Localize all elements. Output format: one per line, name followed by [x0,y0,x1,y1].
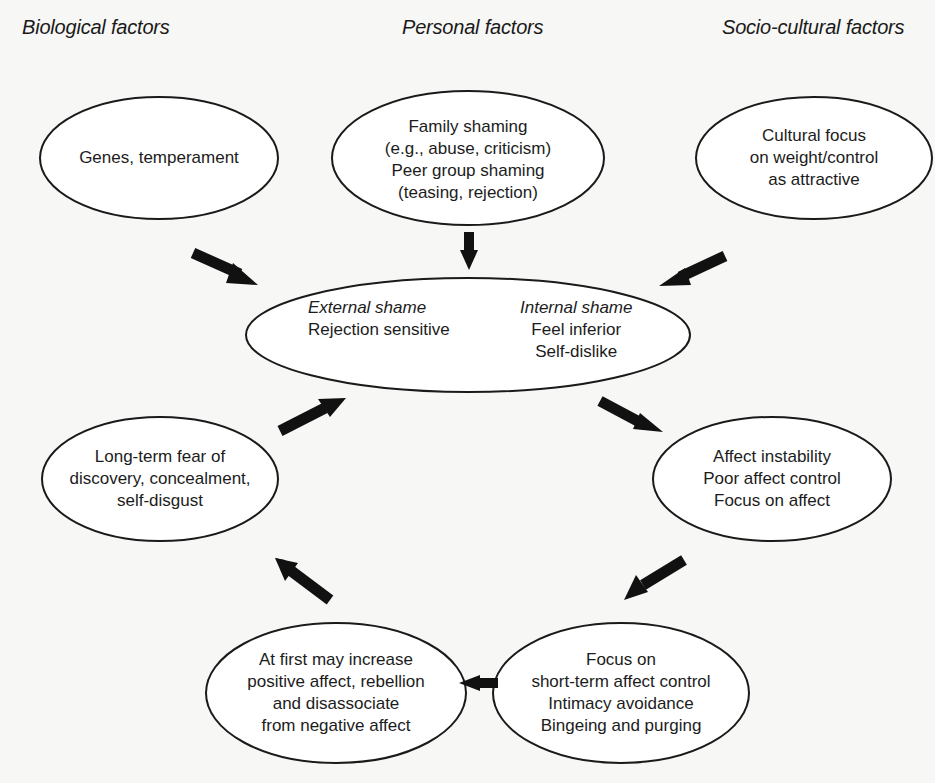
long-term-line: self-disgust [69,490,250,512]
cultural-line: as attractive [750,169,879,191]
at-first-line: positive affect, rebellion [247,671,424,693]
long-term-node: Long-term fear of discovery, concealment… [69,446,250,512]
personal-factors-node: Family shaming (e.g., abuse, criticism) … [385,116,551,204]
genes-line: Genes, temperament [79,147,239,169]
arrow-up-left-icon [275,558,330,600]
at-first-line: and disassociate [247,693,424,715]
focus-short-term-node: Focus on short-term affect control Intim… [531,649,710,737]
arrow-down-left-icon [624,560,684,600]
internal-shame-title: Internal shame [520,297,632,319]
focus-short-line: short-term affect control [531,671,710,693]
internal-shame-line: Feel inferior [520,319,632,341]
external-shame-line: Rejection sensitive [308,319,450,341]
focus-short-line: Focus on [531,649,710,671]
genes-node: Genes, temperament [79,147,239,169]
affect-line: Affect instability [703,446,841,468]
affect-line: Poor affect control [703,468,841,490]
affect-line: Focus on affect [703,490,841,512]
heading-socio-cultural-factors: Socio-cultural factors [722,16,904,39]
external-shame-title: External shame [308,297,450,319]
external-shame-block: External shame Rejection sensitive [308,297,450,341]
internal-shame-block: Internal shame Feel inferior Self-dislik… [520,297,632,363]
arrow-up-right-icon [280,398,346,431]
arrow-down-icon [460,232,478,270]
heading-biological-factors: Biological factors [22,16,170,39]
long-term-line: Long-term fear of [69,446,250,468]
arrow-down-left-icon [659,256,725,286]
heading-personal-factors: Personal factors [402,16,543,39]
personal-line: Peer group shaming [385,160,551,182]
focus-short-line: Intimacy avoidance [531,693,710,715]
arrow-down-right-icon [600,401,663,432]
long-term-line: discovery, concealment, [69,468,250,490]
affect-node: Affect instability Poor affect control F… [703,446,841,512]
cultural-node: Cultural focus on weight/control as attr… [750,125,879,191]
internal-shame-line: Self-dislike [520,341,632,363]
at-first-line: from negative affect [247,715,424,737]
at-first-node: At first may increase positive affect, r… [247,649,424,737]
arrow-down-right-icon [193,253,258,285]
cultural-line: on weight/control [750,147,879,169]
focus-short-line: Bingeing and purging [531,715,710,737]
personal-line: (teasing, rejection) [385,182,551,204]
personal-line: Family shaming [385,116,551,138]
cultural-line: Cultural focus [750,125,879,147]
personal-line: (e.g., abuse, criticism) [385,138,551,160]
at-first-line: At first may increase [247,649,424,671]
